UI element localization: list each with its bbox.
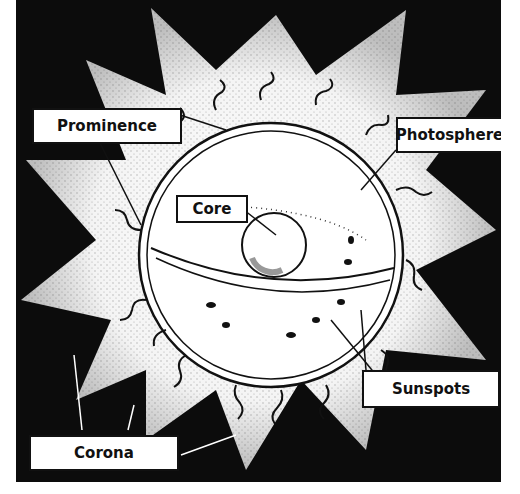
label-core: Core [176,195,248,223]
label-photosphere-text: Photosphere [396,126,501,144]
label-photosphere: Photosphere [396,117,501,153]
label-core-text: Core [193,200,232,218]
label-prominence-text: Prominence [57,117,157,135]
label-sunspots-text: Sunspots [392,380,470,398]
label-corona: Corona [29,435,179,471]
core-circle [242,213,306,277]
label-prominence: Prominence [32,108,182,144]
label-sunspots: Sunspots [362,370,500,408]
sun-illustration [16,0,501,482]
label-corona-text: Corona [74,444,134,462]
sun-diagram: Prominence Photosphere Core Sunspots Cor… [16,0,501,482]
